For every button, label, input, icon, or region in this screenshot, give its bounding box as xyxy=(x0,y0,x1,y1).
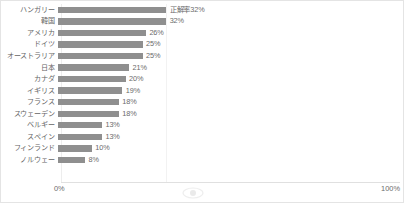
category-label: イギリス xyxy=(1,87,58,95)
bar[interactable] xyxy=(58,157,85,163)
bar-row: ハンガリー正解率32% xyxy=(1,4,404,16)
category-label: 韓国 xyxy=(1,17,58,25)
bar[interactable] xyxy=(58,145,92,151)
bar-track: 19% xyxy=(58,85,404,97)
bar[interactable] xyxy=(58,18,166,24)
category-label: ベルギー xyxy=(1,121,58,129)
bar[interactable] xyxy=(58,122,102,128)
bar-row: アメリカ26% xyxy=(1,27,404,39)
bar-row: フランス18% xyxy=(1,96,404,108)
bar-value-label: 13% xyxy=(102,121,120,129)
category-label: ハンガリー xyxy=(1,6,58,14)
bar-track: 26% xyxy=(58,27,404,39)
bar-row: フィンランド10% xyxy=(1,143,404,155)
bar-value-label: 26% xyxy=(146,29,164,37)
category-label: ドイツ xyxy=(1,40,58,48)
category-label: スペイン xyxy=(1,133,58,141)
bar[interactable] xyxy=(58,76,126,82)
category-label: ノルウェー xyxy=(1,156,58,164)
category-label: フィンランド xyxy=(1,144,58,152)
bar-track: 13% xyxy=(58,131,404,143)
bar-row: ドイツ25% xyxy=(1,39,404,51)
bar-value-label: 19% xyxy=(122,87,140,95)
bar-value-label: 20% xyxy=(126,75,144,83)
bar-value-label: 正解率32% xyxy=(166,6,205,14)
bar[interactable] xyxy=(58,41,143,47)
category-label: スウェーデン xyxy=(1,110,58,118)
bar-row: 韓国32% xyxy=(1,16,404,28)
category-label: オーストラリア xyxy=(1,52,58,60)
bar-track: 18% xyxy=(58,108,404,120)
category-label: 日本 xyxy=(1,64,58,72)
eye-watermark-icon xyxy=(182,187,204,199)
bar-track: 10% xyxy=(58,143,404,155)
bar-row: オーストラリア25% xyxy=(1,50,404,62)
bar[interactable] xyxy=(58,7,166,13)
bar-track: 18% xyxy=(58,96,404,108)
axis-tick-min: 0% xyxy=(54,184,65,194)
bar-rows: ハンガリー正解率32%韓国32%アメリカ26%ドイツ25%オーストラリア25%日… xyxy=(1,4,404,166)
bar-track: 正解率32% xyxy=(58,4,404,16)
bar-value-label: 21% xyxy=(129,64,147,72)
bar-chart: ハンガリー正解率32%韓国32%アメリカ26%ドイツ25%オーストラリア25%日… xyxy=(0,0,404,203)
bar-value-label: 13% xyxy=(102,133,120,141)
bar-track: 25% xyxy=(58,50,404,62)
bar[interactable] xyxy=(58,134,102,140)
bar-row: イギリス19% xyxy=(1,85,404,97)
category-label: アメリカ xyxy=(1,29,58,37)
plot-area: ハンガリー正解率32%韓国32%アメリカ26%ドイツ25%オーストラリア25%日… xyxy=(1,1,403,202)
bar-row: 日本21% xyxy=(1,62,404,74)
bar-row: スウェーデン18% xyxy=(1,108,404,120)
category-label: フランス xyxy=(1,98,58,106)
bar-track: 8% xyxy=(58,154,404,166)
bar-track: 13% xyxy=(58,119,404,131)
category-label: カナダ xyxy=(1,75,58,83)
bar-row: ノルウェー8% xyxy=(1,154,404,166)
bar-track: 21% xyxy=(58,62,404,74)
bar-value-label: 25% xyxy=(143,52,161,60)
bar-row: ベルギー13% xyxy=(1,119,404,131)
bar-value-label: 18% xyxy=(119,110,137,118)
bar[interactable] xyxy=(58,111,119,117)
bar-track: 32% xyxy=(58,16,404,28)
bar-value-label: 8% xyxy=(85,156,99,164)
bar[interactable] xyxy=(58,64,129,70)
bar[interactable] xyxy=(58,99,119,105)
bar[interactable] xyxy=(58,53,143,59)
category-axis-line xyxy=(61,182,400,183)
bar-value-label: 18% xyxy=(119,98,137,106)
bar-row: カナダ20% xyxy=(1,73,404,85)
bar-track: 25% xyxy=(58,39,404,51)
bar-value-label: 32% xyxy=(166,17,184,25)
bar-row: スペイン13% xyxy=(1,131,404,143)
bar-value-label: 25% xyxy=(143,40,161,48)
bar[interactable] xyxy=(58,87,122,93)
bar-value-label: 10% xyxy=(92,144,110,152)
bar[interactable] xyxy=(58,30,146,36)
bar-track: 20% xyxy=(58,73,404,85)
axis-tick-max: 100% xyxy=(381,184,400,194)
